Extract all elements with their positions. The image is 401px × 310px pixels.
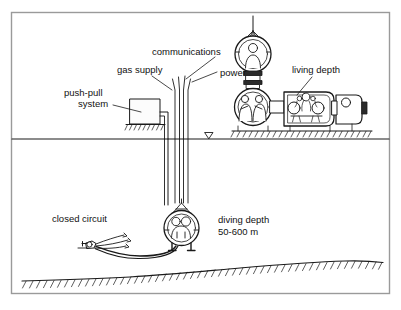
label-gas-supply: gas supply: [117, 64, 163, 75]
label-communications: communications: [152, 46, 221, 57]
label-living-depth: living depth: [292, 64, 340, 75]
label-push-pull-line2: system: [78, 98, 108, 109]
saturation-diving-diagram: push-pull system gas supply communicatio…: [0, 0, 401, 310]
label-power: power: [220, 67, 246, 78]
living-chamber: [284, 92, 367, 126]
label-diving-depth-line2: 50-600 m: [218, 226, 258, 237]
diagram-figure: push-pull system gas supply communicatio…: [0, 0, 401, 310]
label-diving-depth-line1: diving depth: [218, 214, 269, 225]
label-closed-circuit: closed circuit: [52, 213, 107, 224]
label-push-pull-line1: push-pull: [64, 87, 103, 98]
